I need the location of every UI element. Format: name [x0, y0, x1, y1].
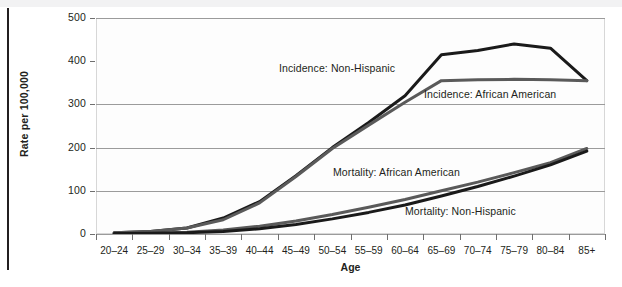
y-tick-label: 500	[40, 11, 86, 23]
x-tick-label: 35–39	[203, 245, 243, 256]
y-tick-mark	[90, 148, 95, 149]
y-tick-label: 100	[40, 184, 86, 196]
x-tick-label: 75–79	[494, 245, 534, 256]
scan-artifact-band	[0, 0, 622, 7]
x-tick-label: 40–44	[240, 245, 280, 256]
series-annotation: Mortality: Non-Hispanic	[405, 205, 516, 217]
y-tick-mark	[90, 104, 95, 105]
x-tick-mark	[132, 234, 133, 240]
x-tick-mark	[387, 234, 388, 240]
series-annotation: Mortality: African American	[333, 166, 460, 178]
y-tick-mark	[90, 18, 95, 19]
y-tick-label: 300	[40, 97, 86, 109]
x-axis-title: Age	[96, 261, 605, 273]
x-tick-mark	[278, 234, 279, 240]
x-tick-label: 25–29	[131, 245, 171, 256]
x-tick-mark	[569, 234, 570, 240]
x-tick-label: 65–69	[421, 245, 461, 256]
x-tick-label: 45–49	[276, 245, 316, 256]
y-axis-title: Rate per 100,000	[18, 54, 30, 174]
y-tick-label: 0	[40, 227, 86, 239]
left-border-rule	[7, 8, 9, 270]
x-tick-mark	[169, 234, 170, 240]
x-tick-mark	[205, 234, 206, 240]
y-tick-label: 200	[40, 141, 86, 153]
x-tick-mark	[314, 234, 315, 240]
x-tick-mark	[96, 234, 97, 240]
x-tick-mark	[241, 234, 242, 240]
y-tick-mark	[90, 191, 95, 192]
x-tick-label: 55–59	[349, 245, 389, 256]
y-tick-label: 400	[40, 54, 86, 66]
x-tick-label: 70–74	[458, 245, 498, 256]
chart-figure: Rate per 100,000 Age 0100200300400500 20…	[0, 0, 622, 287]
x-tick-label: 80–84	[530, 245, 570, 256]
x-tick-mark	[532, 234, 533, 240]
x-tick-mark	[496, 234, 497, 240]
y-tick-mark	[90, 234, 95, 235]
x-tick-label: 50–54	[312, 245, 352, 256]
x-tick-mark	[351, 234, 352, 240]
series-annotation: Incidence: Non-Hispanic	[279, 62, 395, 74]
x-tick-mark	[605, 234, 606, 240]
series-lines	[96, 18, 605, 234]
series-line	[114, 151, 587, 234]
x-tick-label: 85+	[567, 245, 607, 256]
y-tick-mark	[90, 61, 95, 62]
x-tick-mark	[423, 234, 424, 240]
series-line	[114, 148, 587, 233]
x-tick-mark	[460, 234, 461, 240]
x-tick-label: 20–24	[94, 245, 134, 256]
x-tick-label: 30–34	[167, 245, 207, 256]
series-annotation: Incidence: African American	[424, 88, 556, 100]
x-tick-label: 60–64	[385, 245, 425, 256]
